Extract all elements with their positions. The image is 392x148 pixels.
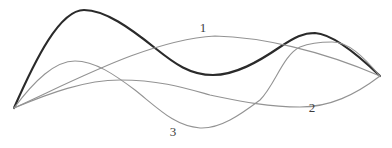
- curves-figure: 1 2 3: [0, 0, 392, 148]
- curve-1-label: 1: [200, 21, 207, 34]
- curve-3-label: 3: [170, 125, 177, 138]
- curve-2-label: 2: [309, 101, 316, 114]
- thick-main-curve: [14, 10, 380, 108]
- curves-canvas: [0, 0, 392, 148]
- curve-2: [14, 76, 380, 108]
- curve-3: [14, 42, 380, 128]
